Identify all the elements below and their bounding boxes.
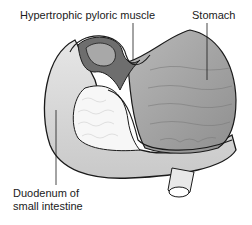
label-duodenum-line2: small intestine	[13, 200, 83, 213]
label-pyloric-muscle: Hypertrophic pyloric muscle	[20, 9, 155, 22]
duodenum-lumen	[73, 86, 140, 151]
label-duodenum: Duodenum of small intestine	[13, 187, 83, 213]
stomach	[128, 30, 236, 153]
tube-opening	[169, 187, 189, 197]
label-duodenum-line1: Duodenum of	[13, 187, 83, 200]
label-stomach: Stomach	[192, 9, 235, 22]
